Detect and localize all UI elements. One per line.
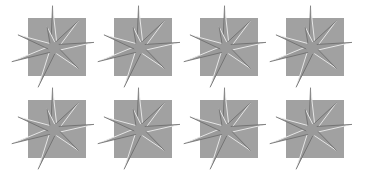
star-tile bbox=[184, 88, 265, 169]
star-tile bbox=[184, 6, 265, 87]
star-tile-grid bbox=[0, 0, 365, 171]
star-tile bbox=[98, 88, 179, 169]
star-tile bbox=[98, 6, 179, 87]
star-tile bbox=[12, 88, 93, 169]
star-tile bbox=[12, 6, 93, 87]
star-tile bbox=[270, 88, 351, 169]
star-tile bbox=[270, 6, 351, 87]
